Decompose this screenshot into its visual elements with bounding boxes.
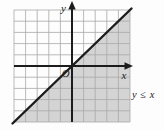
origin-label: O [62,68,70,79]
coordinate-plane: y x O y ≤ x [0,0,164,130]
y-axis-label: y [60,2,66,14]
y-axis-arrow-icon [68,1,75,10]
x-axis-label: x [121,69,127,81]
inequality-graph-figure: y x O y ≤ x [0,0,164,130]
inequality-label: y ≤ x [131,89,155,100]
